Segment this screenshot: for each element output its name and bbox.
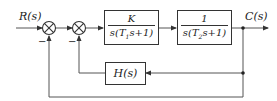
pickoff-point-output [241,26,245,30]
g1-numerator: K [125,13,138,24]
block-g1: K s(T1s+1) [104,10,159,45]
input-label: R(s) [19,11,42,22]
summing-junction-1 [43,22,56,35]
h-label: H(s) [114,67,138,80]
block-h: H(s) [105,62,146,85]
summing-junction-2 [73,22,86,35]
g2-numerator: 1 [198,13,210,24]
g1-fraction-bar [108,25,155,26]
g2-denominator: s(T2s+1) [183,27,226,42]
g2-fraction-bar [181,25,228,26]
pickoff-point-feedback [241,71,245,75]
sum1-minus-sign: − [38,37,46,47]
block-g2: 1 s(T2s+1) [177,10,232,45]
g1-denominator: s(T1s+1) [110,27,153,42]
output-label: C(s) [245,11,268,22]
sum2-minus-sign: − [68,37,76,47]
